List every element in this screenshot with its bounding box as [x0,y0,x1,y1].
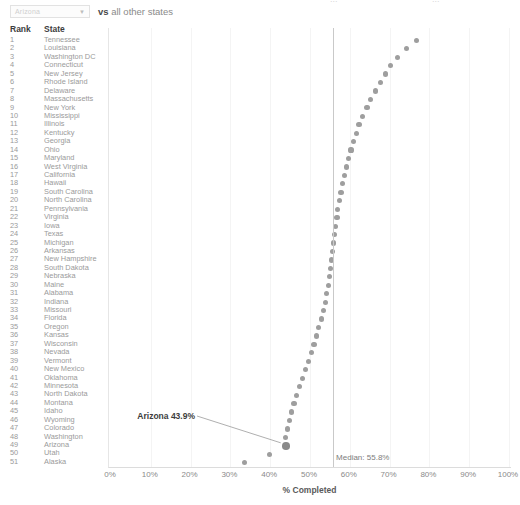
x-tick-label: 30% [221,470,237,479]
scatter-plot-area: Median: 55.8% Arizona 43.9% [108,28,511,468]
x-tick-label: 100% [498,470,518,479]
table-row[interactable]: 51Alaska [0,458,108,466]
annotation-leader-line [109,28,512,468]
comparison-prefix: vs [98,6,109,17]
x-tick-label: 0% [104,470,116,479]
x-tick-label: 60% [341,470,357,479]
x-tick-label: 70% [381,470,397,479]
x-tick-label: 80% [420,470,436,479]
x-axis-title: % Completed [108,485,511,495]
comparison-label: vs all other states [98,6,173,17]
row-state: Alaska [44,458,66,466]
highlight-annotation-label: Arizona 43.9% [137,411,195,421]
x-tick-label: 20% [182,470,198,479]
clipped-text-fragment: ... [330,0,338,4]
x-tick-label: 50% [301,470,317,479]
state-rank-list: 1Tennessee2Louisiana3Washington DC4Conne… [0,36,108,466]
row-rank: 51 [10,458,18,466]
state-select-value: Arizona [11,8,40,15]
comparison-suffix: all other states [111,6,173,17]
column-header-rank: Rank [10,24,31,34]
chevron-down-icon: ▼ [79,9,85,15]
column-header-state: State [44,24,65,34]
x-axis-tick-labels: 0%10%20%30%40%50%60%70%80%90%100% [108,470,511,482]
control-bar: Arizona ▼ vs all other states [10,4,173,19]
x-tick-label: 40% [261,470,277,479]
x-tick-label: 10% [142,470,158,479]
clipped-text-fragment: ... [432,0,440,4]
x-tick-label: 90% [460,470,476,479]
state-select-dropdown[interactable]: Arizona ▼ [10,5,90,18]
